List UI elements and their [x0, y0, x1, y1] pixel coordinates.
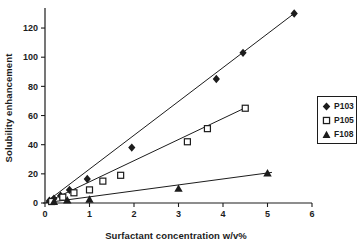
triangle-marker-icon	[322, 130, 331, 139]
x-tick-label: 0	[42, 209, 47, 219]
legend-item-f108: F108	[322, 130, 353, 139]
data-point-p105	[71, 190, 77, 196]
data-point-p105	[118, 172, 124, 178]
legend-item-p103: P103	[322, 102, 353, 111]
x-tick-label: 4	[220, 209, 225, 219]
y-tick-label: 80	[28, 82, 38, 92]
legend: P103 P105 F108	[317, 96, 357, 144]
y-tick-label: 120	[23, 23, 38, 33]
x-tick-label: 3	[176, 209, 181, 219]
x-axis-title: Surfactant concentration w/v%	[105, 230, 247, 241]
legend-item-p105: P105	[322, 116, 353, 125]
data-point-p103	[128, 143, 135, 151]
legend-label-f108: F108	[334, 130, 353, 139]
square-marker-icon	[322, 116, 331, 125]
y-axis-title: Solubility enhancement	[3, 53, 14, 163]
data-point-p105	[204, 126, 210, 132]
y-tick-label: 0	[33, 198, 38, 208]
data-point-p105	[242, 105, 248, 111]
legend-label-p105: P105	[334, 116, 354, 125]
data-point-p103	[291, 9, 298, 17]
chart-canvas: 0204060801001200123456 Solubility enhanc…	[0, 0, 364, 250]
data-point-p105	[184, 139, 190, 145]
y-tick-label: 60	[28, 111, 38, 121]
x-tick-label: 5	[265, 209, 270, 219]
x-tick-label: 1	[87, 209, 92, 219]
legend-label-p103: P103	[334, 102, 354, 111]
trendline-p105	[46, 107, 248, 203]
y-tick-label: 20	[28, 169, 38, 179]
x-tick-label: 2	[131, 209, 136, 219]
data-point-p105	[100, 178, 106, 184]
data-point-p105	[87, 187, 93, 193]
x-tick-label: 6	[309, 209, 314, 219]
y-tick-label: 100	[23, 52, 38, 62]
data-point-p105	[60, 194, 66, 200]
trendlines	[46, 13, 294, 202]
y-tick-label: 40	[28, 140, 38, 150]
chart-figure: 0204060801001200123456 Solubility enhanc…	[0, 0, 364, 250]
data-point-p103	[213, 75, 220, 83]
diamond-marker-icon	[322, 102, 331, 111]
